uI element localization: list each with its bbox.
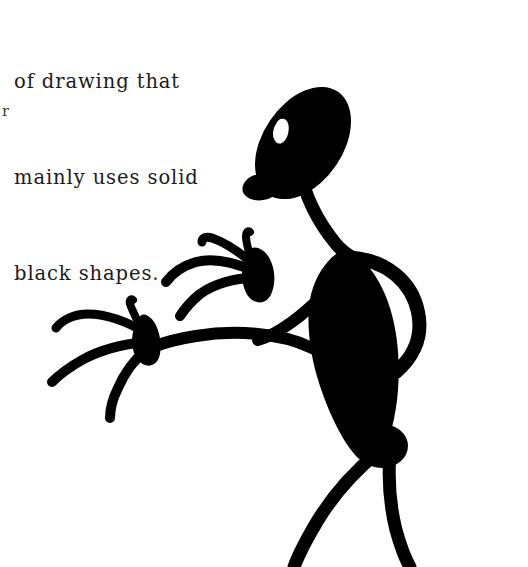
scanned-book-page: of drawing that mainly uses solid black … [0, 0, 528, 567]
upper-hand-finger-3 [180, 278, 254, 316]
upper-hand-palm [242, 248, 274, 303]
right-leg-stroke [389, 452, 410, 567]
silhouette-figure [0, 0, 528, 567]
lower-hand-fingers [52, 299, 161, 418]
left-leg-stroke [294, 452, 378, 567]
neck-stroke [300, 170, 352, 257]
upper-hand-fingers [166, 231, 274, 316]
